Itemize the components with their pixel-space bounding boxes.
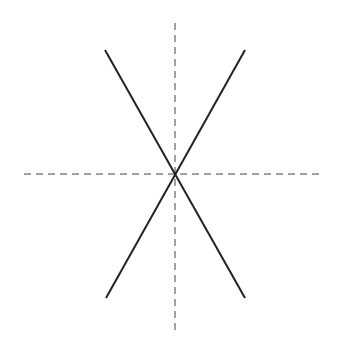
crossing-lines-diagram — [0, 0, 344, 342]
